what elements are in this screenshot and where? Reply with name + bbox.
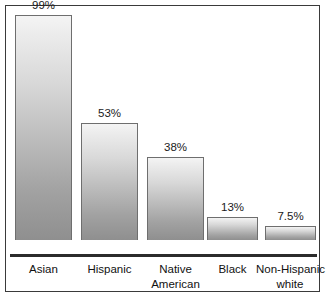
category-label-black-line-1: Black (207, 262, 258, 277)
x-axis-line (10, 254, 317, 257)
category-label-asian: Asian (15, 262, 72, 277)
bar-value-black: 13% (207, 201, 258, 214)
category-label-hispanic: Hispanic (79, 262, 140, 277)
bar-asian[interactable] (15, 15, 72, 240)
category-label-native-american-line-2: American (145, 277, 206, 292)
bar-black[interactable] (207, 217, 258, 240)
bar-non-hispanic-white[interactable] (265, 226, 316, 240)
category-label-non-hispanic-white-line-2: white (256, 277, 324, 292)
category-label-hispanic-line-1: Hispanic (79, 262, 140, 277)
bar-group-non-hispanic-white: 7.5% (265, 226, 316, 240)
category-label-native-american-line-1: Native (145, 262, 206, 277)
bar-native-american[interactable] (147, 157, 204, 240)
bar-group-native-american: 38% (147, 157, 204, 240)
bar-value-non-hispanic-white: 7.5% (265, 210, 316, 223)
chart-frame: 99% 53% 38% 13% 7.5% Asian Hispani (5, 5, 320, 292)
bar-group-asian: 99% (15, 15, 72, 240)
category-label-non-hispanic-white-line-1: Non-Hispanic (256, 262, 324, 277)
bar-group-black: 13% (207, 217, 258, 240)
bar-hispanic[interactable] (81, 123, 138, 240)
category-label-non-hispanic-white: Non-Hispanic white (256, 262, 324, 291)
bar-group-hispanic: 53% (81, 123, 138, 240)
category-label-asian-line-1: Asian (15, 262, 72, 277)
bar-value-native-american: 38% (147, 141, 204, 154)
bar-value-hispanic: 53% (81, 107, 138, 120)
bar-value-asian: 99% (15, 0, 72, 12)
category-label-native-american: Native American (145, 262, 206, 291)
plot-area: 99% 53% 38% 13% 7.5% Asian Hispani (6, 6, 319, 291)
category-label-black: Black (207, 262, 258, 277)
